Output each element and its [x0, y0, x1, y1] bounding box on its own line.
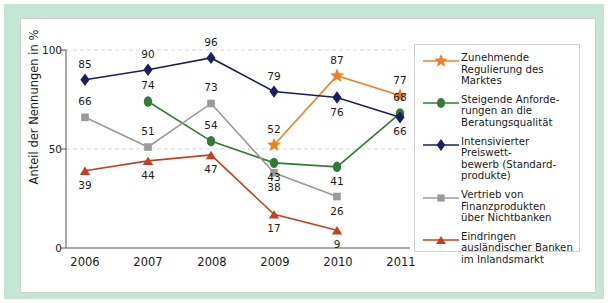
data-label: 26	[322, 205, 352, 217]
legend-label: ZunehmendeRegulierung desMarktes	[461, 52, 544, 87]
x-tick-2006: 2006	[55, 255, 115, 269]
data-label: 68	[385, 91, 415, 103]
legend-label-line: Finanzprodukten	[461, 201, 552, 213]
square-marker	[81, 114, 89, 122]
diamond-marker	[80, 74, 89, 86]
square-marker	[333, 193, 341, 201]
data-label: 52	[259, 123, 289, 135]
square-marker	[421, 190, 461, 205]
data-label: 73	[196, 81, 226, 93]
data-label: 77	[385, 74, 415, 86]
y-tick-100: 100	[36, 44, 62, 56]
data-label: 85	[70, 58, 100, 70]
circle-marker	[270, 158, 278, 168]
y-tick-50: 50	[36, 143, 62, 155]
star-marker	[330, 68, 344, 81]
legend-label: Vertrieb vonFinanzproduktenüber Nichtban…	[461, 189, 552, 224]
data-label: 17	[259, 222, 289, 234]
legend-label-line: Vertrieb von	[461, 189, 552, 201]
data-label: 51	[133, 125, 163, 137]
data-label: 41	[322, 175, 352, 187]
data-label: 87	[322, 54, 352, 66]
data-label: 90	[133, 48, 163, 60]
square-marker	[144, 143, 152, 151]
star-marker	[421, 53, 461, 68]
data-label: 47	[196, 163, 226, 175]
legend-label: Steigende Anforde-rungen an dieBeratungs…	[461, 94, 559, 129]
diamond-marker	[421, 137, 461, 152]
legend-label-line: über Nichtbanken	[461, 212, 552, 224]
x-tick-2009: 2009	[245, 255, 305, 269]
legend-item-4: Eindringenausländischer Bankenim Inlands…	[421, 231, 573, 266]
square-marker	[437, 194, 444, 201]
triangle-marker	[332, 226, 342, 234]
circle-marker	[207, 136, 215, 146]
legend-label-line: Beratungsqualität	[461, 117, 559, 129]
diamond-marker	[269, 85, 278, 97]
star-marker	[434, 54, 447, 67]
square-marker	[207, 100, 215, 108]
data-label: 74	[133, 79, 163, 91]
data-label: 39	[70, 179, 100, 191]
circle-marker	[437, 98, 445, 108]
data-series-group	[80, 52, 407, 235]
legend-label-line: produkte)	[461, 170, 573, 182]
screenshot-frame: Anteil der Nennungen in % 100 50 0 2006 …	[0, 0, 608, 303]
legend-label-line: Zunehmende	[461, 52, 544, 64]
y-tick-0: 0	[36, 242, 62, 254]
chart-legend: ZunehmendeRegulierung desMarktesSteigend…	[414, 44, 580, 252]
legend-label-line: Marktes	[461, 75, 544, 87]
legend-label-line: Eindringen	[461, 231, 573, 243]
x-tick-2010: 2010	[308, 255, 368, 269]
circle-marker	[333, 162, 341, 172]
legend-label-line: Intensivierter Preiswett-	[461, 136, 573, 159]
x-tick-2008: 2008	[182, 255, 242, 269]
legend-item-1: Steigende Anforde-rungen an dieBeratungs…	[421, 94, 573, 129]
data-label: 9	[322, 238, 352, 250]
legend-label-line: Steigende Anforde-	[461, 94, 559, 106]
circle-marker	[421, 95, 461, 110]
triangle-marker	[421, 232, 461, 247]
x-tick-2007: 2007	[118, 255, 178, 269]
legend-label: Eindringenausländischer Bankenim Inlands…	[461, 231, 573, 266]
diamond-marker	[437, 139, 446, 151]
data-label: 79	[259, 70, 289, 82]
legend-label: Intensivierter Preiswett-bewerb (Standar…	[461, 136, 573, 182]
circle-marker	[144, 96, 152, 106]
data-label: 76	[322, 106, 352, 118]
diamond-marker	[332, 91, 341, 103]
data-label: 66	[70, 95, 100, 107]
data-label: 54	[196, 119, 226, 131]
data-label: 96	[196, 36, 226, 48]
y-axis-title: Anteil der Nennungen in %	[27, 7, 41, 207]
diamond-marker	[206, 52, 215, 64]
legend-label-line: Regulierung des	[461, 64, 544, 76]
legend-label-line: im Inlandsmarkt	[461, 254, 573, 266]
legend-item-0: ZunehmendeRegulierung desMarktes	[421, 52, 573, 87]
legend-label-line: ausländischer Banken	[461, 242, 573, 254]
data-label: 38	[259, 181, 289, 193]
diamond-marker	[143, 64, 152, 76]
legend-label-line: bewerb (Standard-	[461, 159, 573, 171]
legend-label-line: rungen an die	[461, 105, 559, 117]
legend-item-2: Intensivierter Preiswett-bewerb (Standar…	[421, 136, 573, 182]
data-label: 66	[385, 125, 415, 137]
legend-item-3: Vertrieb vonFinanzproduktenüber Nichtban…	[421, 189, 573, 224]
data-label: 44	[133, 169, 163, 181]
